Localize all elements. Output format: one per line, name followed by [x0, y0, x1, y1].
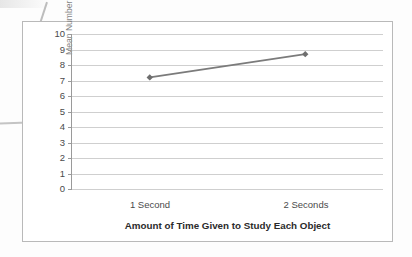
y-axis-tick-label: 2 — [60, 153, 65, 163]
y-axis-tick-label: 10 — [54, 29, 65, 39]
y-axis-tick-label: 4 — [60, 122, 65, 132]
y-axis-tick-label: 0 — [60, 184, 65, 194]
y-axis-tick-label: 5 — [60, 107, 65, 117]
data-point-marker — [302, 51, 308, 57]
plot-area: 109876543210 1 Second2 Seconds Amount of… — [71, 34, 383, 189]
y-axis-tick-label: 7 — [60, 76, 65, 86]
scan-artifact-edge-smudge — [0, 0, 50, 8]
chart-border: Mean Number of Objects Retained 10987654… — [22, 21, 393, 242]
data-series — [72, 34, 383, 189]
x-axis-tick-label: 1 Second — [130, 200, 170, 210]
y-axis-tick-label: 9 — [60, 45, 65, 55]
data-point-marker — [147, 74, 153, 80]
gridline — [72, 189, 383, 190]
y-axis-tick-label: 6 — [60, 91, 65, 101]
y-axis-tick-label: 8 — [60, 60, 65, 70]
series-line — [150, 54, 306, 77]
chart-screenshot: Mean Number of Objects Retained 10987654… — [0, 0, 412, 257]
y-axis-tick-label: 3 — [60, 138, 65, 148]
x-axis-title: Amount of Time Given to Study Each Objec… — [72, 220, 383, 231]
y-axis-tick — [68, 189, 72, 190]
y-axis-tick-label: 1 — [60, 169, 65, 179]
x-axis-tick-label: 2 Seconds — [284, 200, 329, 210]
